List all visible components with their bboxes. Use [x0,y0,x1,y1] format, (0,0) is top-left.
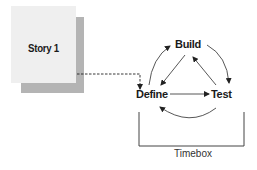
node-test: Test [211,88,232,100]
dashed-connector [77,74,140,89]
arrow-test-to-define [160,107,216,118]
arrow-build-to-define [161,55,185,85]
timebox-bracket [139,112,244,146]
arrow-test-to-build [193,57,216,85]
timebox-label: Timebox [170,148,216,159]
arrow-define-to-build [149,46,170,85]
arrow-build-to-test [207,45,229,83]
node-build: Build [175,38,201,50]
node-define: Define [136,88,168,100]
cycle-diagram [0,0,257,170]
